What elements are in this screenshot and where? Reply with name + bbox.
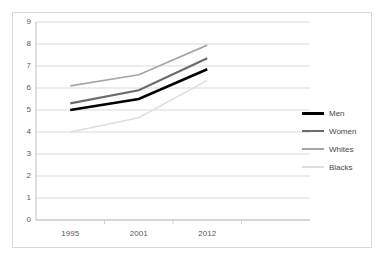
legend-label: Men (329, 109, 345, 118)
x-tick-label-2012: 2012 (187, 229, 227, 238)
y-tick-label-1: 1 (17, 193, 31, 202)
x-tick-label-1995: 1995 (50, 229, 90, 238)
legend-swatch-line-icon (302, 112, 324, 115)
y-tick-label-2: 2 (17, 171, 31, 180)
y-tick-label-6: 6 (17, 83, 31, 92)
clipped-title-sliver (0, 0, 384, 6)
legend-swatch-line-icon (302, 148, 324, 150)
y-tick-label-0: 0 (17, 215, 31, 224)
y-tick-label-5: 5 (17, 105, 31, 114)
legend-item-blacks[interactable]: Blacks (302, 158, 368, 176)
legend-item-whites[interactable]: Whites (302, 140, 368, 158)
y-tick-label-9: 9 (17, 17, 31, 26)
x-tick-label-2001: 2001 (119, 229, 159, 238)
legend-swatch-line-icon (302, 130, 324, 132)
y-tick-label-7: 7 (17, 61, 31, 70)
legend-label: Whites (329, 145, 353, 154)
legend-item-women[interactable]: Women (302, 122, 368, 140)
chart-legend: MenWomenWhitesBlacks (302, 104, 368, 176)
legend-swatch-line-icon (302, 166, 324, 168)
y-tick-label-8: 8 (17, 39, 31, 48)
y-tick-label-4: 4 (17, 127, 31, 136)
legend-label: Women (329, 127, 356, 136)
y-tick-label-3: 3 (17, 149, 31, 158)
legend-item-men[interactable]: Men (302, 104, 368, 122)
legend-label: Blacks (329, 163, 353, 172)
